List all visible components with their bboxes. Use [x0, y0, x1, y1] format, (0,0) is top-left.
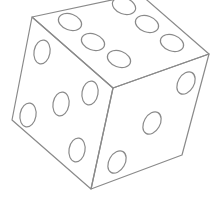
pip [173, 69, 199, 98]
die-left-face [12, 17, 113, 189]
pip [79, 30, 107, 53]
pip [18, 102, 38, 128]
pip [133, 12, 161, 35]
pip [158, 31, 186, 54]
pip [80, 80, 100, 106]
pip [139, 109, 165, 138]
pip [110, 0, 138, 18]
pip [51, 91, 71, 117]
die-right-face [91, 54, 209, 189]
die-drawing [0, 0, 223, 198]
pip [105, 47, 133, 70]
pip [104, 148, 130, 177]
pip [56, 10, 84, 33]
pip [67, 137, 87, 163]
pip [32, 39, 52, 65]
